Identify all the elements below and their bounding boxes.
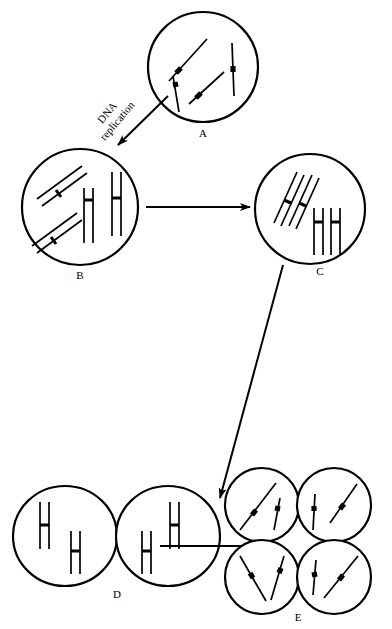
cell-c-outline[interactable] [255, 154, 365, 264]
connector-c-to-d[interactable] [220, 265, 283, 498]
stage-c-group[interactable]: C [255, 154, 365, 277]
stage-a-group[interactable]: A [148, 12, 258, 139]
cell-d-label: D [113, 588, 121, 600]
cell-e-top-right-outline[interactable] [297, 468, 371, 542]
arrow-c-to-d-line [220, 265, 283, 498]
cell-c-label: C [316, 265, 323, 277]
meiosis-diagram: A DNA replication [0, 0, 392, 629]
cell-d-right-outline[interactable] [116, 486, 220, 586]
stage-e-group[interactable]: E [225, 468, 371, 623]
stage-d-group[interactable]: D [13, 486, 220, 600]
cell-e-label: E [295, 611, 302, 623]
cell-e-top-left-outline[interactable] [225, 468, 299, 542]
cell-b-label: B [76, 269, 83, 281]
cell-d-left-outline[interactable] [13, 486, 117, 586]
cell-a-label: A [199, 127, 207, 139]
cell-a-outline[interactable] [148, 12, 258, 122]
stage-b-group[interactable]: B [22, 149, 138, 281]
cell-e-bottom-right-outline[interactable] [297, 540, 371, 614]
diagram-canvas: A DNA replication [0, 0, 392, 629]
connector-a-to-b[interactable]: DNA replication [87, 90, 168, 145]
cell-e-bottom-left-outline[interactable] [225, 540, 299, 614]
